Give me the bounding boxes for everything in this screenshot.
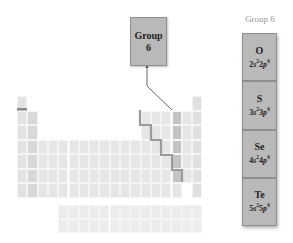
- group-6-callout: Group 6: [130, 17, 167, 66]
- callout-line2: 6: [146, 42, 151, 54]
- electron-config: 3s23p4: [249, 104, 270, 118]
- element-cell-sulfur: S 3s23p4: [242, 81, 277, 129]
- callout-line1: Group: [134, 30, 162, 42]
- element-symbol: S: [257, 93, 263, 104]
- element-symbol: O: [256, 45, 264, 56]
- element-symbol: Se: [255, 141, 265, 152]
- hydrogen-marker: [17, 108, 27, 111]
- electron-config: 2s22p4: [249, 56, 270, 70]
- connector-line: [147, 86, 172, 110]
- electron-config: 4s24p4: [249, 152, 270, 166]
- metalloid-staircase: [140, 110, 182, 182]
- panel-title: Group 6: [241, 14, 279, 24]
- group-6-panel: O 2s22p4 S 3s23p4 Se 4s24p4 Te 5s25p4: [242, 33, 277, 226]
- element-cell-oxygen: O 2s22p4: [242, 33, 277, 81]
- electron-config: 5s25p4: [249, 200, 270, 214]
- element-cell-tellurium: Te 5s25p4: [242, 178, 277, 226]
- element-cell-selenium: Se 4s24p4: [242, 130, 277, 178]
- element-symbol: Te: [254, 189, 264, 200]
